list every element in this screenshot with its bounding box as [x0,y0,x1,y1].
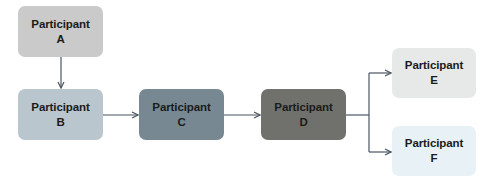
node-title: Participant [405,58,463,73]
node-letter: E [430,73,438,88]
node-participant-c: Participant C [139,89,224,140]
node-participant-a: Participant A [18,6,103,57]
node-participant-f: Participant F [392,126,476,176]
node-title: Participant [31,100,89,115]
node-title: Participant [152,100,210,115]
node-title: Participant [274,100,332,115]
node-title: Participant [405,136,463,151]
node-letter: A [56,32,64,47]
node-participant-e: Participant E [392,48,476,98]
node-letter: C [177,115,185,130]
node-participant-d: Participant D [261,89,346,140]
node-letter: B [56,115,64,130]
node-letter: D [299,115,307,130]
node-title: Participant [31,17,89,32]
node-participant-b: Participant B [18,89,103,140]
node-letter: F [431,151,438,166]
